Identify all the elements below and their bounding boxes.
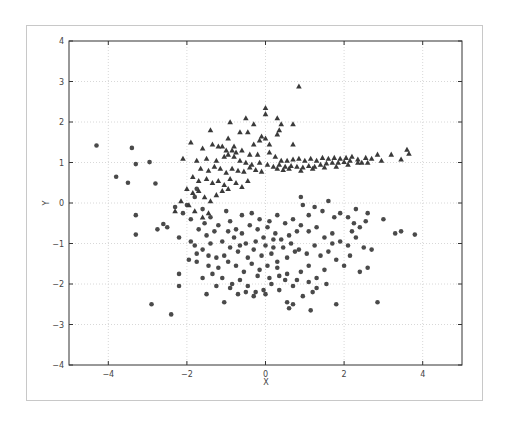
data-point-circle xyxy=(297,247,302,252)
data-point-triangle xyxy=(210,141,216,146)
data-point-circle xyxy=(194,251,199,256)
data-point-triangle xyxy=(267,141,273,146)
data-point-circle xyxy=(214,255,219,260)
data-point-circle xyxy=(352,221,357,226)
data-point-circle xyxy=(134,213,139,218)
data-point-triangle xyxy=(290,141,296,146)
data-point-circle xyxy=(196,227,201,232)
data-point-triangle xyxy=(184,186,190,191)
data-point-circle xyxy=(320,209,325,214)
data-point-circle xyxy=(222,300,227,305)
y-tick-label: 0 xyxy=(59,199,64,208)
data-point-circle xyxy=(206,253,211,258)
data-point-circle xyxy=(312,205,317,210)
data-point-triangle xyxy=(204,156,210,161)
data-point-circle xyxy=(273,231,278,236)
data-point-circle xyxy=(236,292,241,297)
data-point-circle xyxy=(330,231,335,236)
data-point-circle xyxy=(287,233,292,238)
data-point-circle xyxy=(261,288,266,293)
data-point-circle xyxy=(301,203,306,208)
data-point-triangle xyxy=(308,156,314,161)
data-point-triangle xyxy=(233,180,239,185)
data-point-circle xyxy=(285,272,290,277)
data-point-circle xyxy=(192,243,197,248)
data-point-triangle xyxy=(388,152,394,157)
data-point-circle xyxy=(365,266,370,271)
x-axis-label: X xyxy=(263,378,269,387)
data-point-circle xyxy=(342,263,347,268)
data-point-triangle xyxy=(239,184,245,189)
data-point-circle xyxy=(216,223,221,228)
data-point-circle xyxy=(322,235,327,240)
data-point-triangle xyxy=(271,164,277,169)
data-point-circle xyxy=(271,237,276,242)
data-point-circle xyxy=(247,223,252,228)
data-point-circle xyxy=(204,292,209,297)
data-point-triangle xyxy=(218,166,224,171)
data-point-circle xyxy=(358,270,363,275)
data-point-circle xyxy=(324,282,329,287)
data-point-circle xyxy=(161,222,166,227)
data-point-triangle xyxy=(231,144,237,149)
data-point-circle xyxy=(206,263,211,268)
data-point-triangle xyxy=(223,170,229,175)
data-point-circle xyxy=(255,274,260,279)
data-point-triangle xyxy=(398,156,404,161)
data-point-circle xyxy=(194,259,199,264)
data-point-circle xyxy=(246,284,251,289)
data-point-circle xyxy=(249,211,254,216)
data-point-circle xyxy=(279,237,284,242)
data-point-circle xyxy=(236,249,241,254)
data-point-circle xyxy=(306,263,311,268)
axis-ticks: −4−2024−4−3−2−101234 xyxy=(52,37,462,379)
data-point-triangle xyxy=(314,158,320,163)
data-point-circle xyxy=(200,276,205,281)
data-point-circle xyxy=(332,215,337,220)
data-point-circle xyxy=(202,221,207,226)
data-point-circle xyxy=(259,253,264,258)
data-point-triangle xyxy=(290,156,296,161)
data-point-circle xyxy=(240,213,245,218)
y-tick-label: 3 xyxy=(59,78,64,87)
data-point-triangle xyxy=(208,127,214,132)
data-point-circle xyxy=(265,225,270,230)
data-point-circle xyxy=(244,290,249,295)
data-point-circle xyxy=(285,255,290,260)
data-point-circle xyxy=(251,247,256,252)
data-point-circle xyxy=(269,282,274,287)
data-point-circle xyxy=(354,207,359,212)
data-point-circle xyxy=(200,207,205,212)
data-point-circle xyxy=(200,247,205,252)
data-point-circle xyxy=(253,290,258,295)
grid-lines xyxy=(69,41,462,365)
data-point-triangle xyxy=(237,129,243,134)
data-point-circle xyxy=(369,247,374,252)
data-point-circle xyxy=(393,231,398,236)
data-point-triangle xyxy=(196,178,202,183)
data-point-triangle xyxy=(239,148,245,153)
data-point-circle xyxy=(275,266,280,271)
data-point-circle xyxy=(314,225,319,230)
data-point-circle xyxy=(114,174,119,179)
data-point-circle xyxy=(267,219,272,224)
data-point-circle xyxy=(257,217,262,222)
data-point-triangle xyxy=(253,167,259,172)
data-point-triangle xyxy=(320,155,326,160)
data-point-circle xyxy=(177,284,182,289)
data-point-circle xyxy=(326,249,331,254)
data-point-circle xyxy=(299,223,304,228)
data-point-circle xyxy=(348,253,353,258)
data-point-circle xyxy=(326,199,331,204)
data-point-triangle xyxy=(273,154,279,159)
data-point-triangle xyxy=(210,180,216,185)
data-point-circle xyxy=(134,162,139,167)
data-point-circle xyxy=(265,263,270,268)
x-tick-label: 2 xyxy=(342,370,347,379)
data-point-circle xyxy=(350,229,355,234)
data-point-circle xyxy=(299,195,304,200)
data-point-circle xyxy=(249,261,254,266)
data-point-circle xyxy=(275,259,280,264)
data-point-circle xyxy=(308,308,313,313)
data-point-triangle xyxy=(237,158,243,163)
